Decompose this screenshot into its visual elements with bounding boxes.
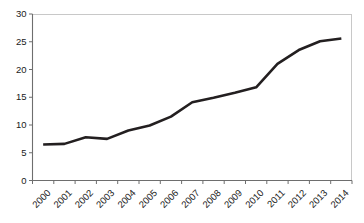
x-axis: 2000200120022003200420052006200720082009… [30, 181, 352, 210]
x-tick-label: 2002 [72, 187, 95, 210]
x-tick-label: 2000 [30, 187, 53, 210]
y-tick-label: 5 [21, 147, 26, 158]
x-tick-label: 2003 [94, 187, 117, 210]
y-tick-label: 30 [16, 8, 27, 19]
x-tick-label: 2008 [200, 187, 223, 210]
x-tick-label: 2004 [115, 187, 138, 210]
chart-canvas: 051015202530 200020012002200320042005200… [0, 0, 364, 223]
x-tick-label: 2005 [136, 187, 159, 210]
y-axis: 051015202530 [16, 8, 33, 186]
y-tick-label: 10 [16, 119, 27, 130]
x-tick-label: 2007 [179, 187, 202, 210]
x-tick-label: 2010 [243, 187, 266, 210]
y-tick-label: 15 [16, 91, 27, 102]
data-series-group [43, 38, 341, 144]
y-tick-label: 25 [16, 36, 27, 47]
x-tick-label: 2001 [51, 187, 74, 210]
plot-frame [32, 15, 352, 181]
x-tick-label: 2006 [158, 187, 181, 210]
x-tick-label: 2009 [222, 187, 245, 210]
y-tick-group: 051015202530 [16, 8, 33, 186]
x-tick-group: 2000200120022003200420052006200720082009… [30, 181, 352, 210]
x-tick-label: 2013 [307, 187, 330, 210]
x-tick-label: 2012 [285, 187, 308, 210]
x-tick-label: 2011 [265, 187, 287, 209]
line-chart: 051015202530 200020012002200320042005200… [0, 0, 364, 223]
y-tick-label: 0 [21, 175, 26, 186]
data-line-series-0 [43, 38, 341, 144]
y-tick-label: 20 [16, 64, 27, 75]
x-tick-label: 2014 [328, 187, 351, 210]
